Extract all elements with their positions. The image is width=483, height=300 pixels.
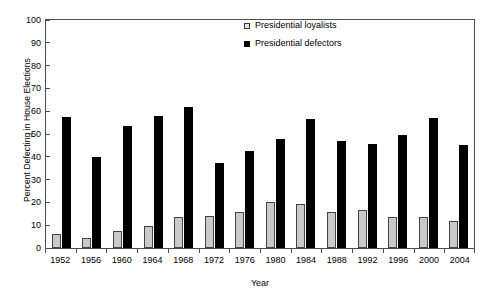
bar-group — [413, 20, 444, 248]
bar-defectors — [154, 116, 163, 248]
bar-group — [444, 20, 475, 248]
bar-loyalists — [113, 231, 122, 248]
bar-defectors — [245, 151, 254, 248]
x-axis-tick-label: 1984 — [291, 256, 322, 266]
bar-chart: Percent Defecting in House Elections 100… — [0, 0, 483, 300]
x-axis-tick-label: 1956 — [76, 256, 107, 266]
y-axis-tick-label: 60 — [31, 107, 46, 116]
y-axis-tick-label: 10 — [31, 221, 46, 230]
bar-group — [107, 20, 138, 248]
x-axis-tick-labels: 1952195619601964196819721976198019841988… — [45, 256, 475, 266]
bar-loyalists — [266, 202, 275, 248]
legend-swatch-defectors-icon — [244, 41, 250, 47]
bar-loyalists — [144, 226, 153, 248]
bar-loyalists — [388, 217, 397, 248]
x-axis-tick-label: 1952 — [45, 256, 76, 266]
bar-loyalists — [419, 217, 428, 248]
bar-group — [168, 20, 199, 248]
x-axis-tick-label: 1972 — [199, 256, 230, 266]
x-axis-tick-label: 1988 — [321, 256, 352, 266]
bar-defectors — [62, 117, 71, 248]
bar-group — [352, 20, 383, 248]
bar-defectors — [368, 144, 377, 248]
x-axis-tick-label: 1960 — [106, 256, 137, 266]
y-axis-tick-label: 30 — [31, 175, 46, 184]
bar-loyalists — [235, 212, 244, 248]
bar-defectors — [123, 126, 132, 248]
x-axis-tick-label: 1992 — [352, 256, 383, 266]
legend-item-defectors: Presidential defectors — [244, 39, 342, 48]
x-axis-tick-label: 1976 — [229, 256, 260, 266]
bar-loyalists — [52, 234, 61, 248]
x-axis-tick-label: 1996 — [383, 256, 414, 266]
bar-group — [382, 20, 413, 248]
legend-label-defectors: Presidential defectors — [255, 39, 342, 48]
bar-defectors — [459, 145, 468, 248]
x-axis-ticks — [45, 249, 475, 256]
legend-label-loyalists: Presidential loyalists — [255, 21, 337, 30]
x-axis-tick-label: 2000 — [414, 256, 445, 266]
legend: Presidential loyalists Presidential defe… — [244, 21, 342, 57]
bar-loyalists — [174, 217, 183, 248]
bar-defectors — [306, 119, 315, 248]
bar-loyalists — [205, 216, 214, 248]
bar-loyalists — [449, 221, 458, 248]
bar-defectors — [337, 141, 346, 248]
x-axis-tick-label: 1968 — [168, 256, 199, 266]
bar-defectors — [398, 135, 407, 248]
bar-defectors — [184, 107, 193, 248]
y-axis-tick-label: 90 — [31, 38, 46, 47]
bar-loyalists — [358, 210, 367, 248]
bar-defectors — [429, 118, 438, 248]
y-axis-tick-label: 80 — [31, 61, 46, 70]
bar-loyalists — [82, 238, 91, 248]
x-axis-tick-label: 2004 — [444, 256, 475, 266]
y-axis-tick-label: 20 — [31, 198, 46, 207]
bar-loyalists — [296, 204, 305, 248]
legend-item-loyalists: Presidential loyalists — [244, 21, 342, 30]
bar-defectors — [276, 139, 285, 248]
bar-group — [138, 20, 169, 248]
x-axis-tick-label: 1964 — [137, 256, 168, 266]
legend-swatch-loyalists-icon — [244, 23, 250, 29]
y-axis-tick-label: 100 — [26, 16, 46, 25]
y-axis-tick-label: 40 — [31, 152, 46, 161]
x-axis-tick-label: 1980 — [260, 256, 291, 266]
bar-defectors — [92, 157, 101, 248]
bar-group — [77, 20, 108, 248]
x-axis-title: Year — [45, 278, 475, 288]
bar-loyalists — [327, 212, 336, 248]
bar-group — [46, 20, 77, 248]
y-axis-tick-label: 70 — [31, 84, 46, 93]
bar-group — [199, 20, 230, 248]
bar-defectors — [215, 163, 224, 249]
y-axis-tick-label: 50 — [31, 130, 46, 139]
